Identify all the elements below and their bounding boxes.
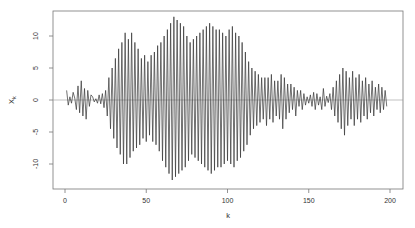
- y-tick-label: -5: [32, 129, 39, 135]
- time-series-chart: 050100150200 -10-50510 k Xk: [0, 0, 415, 228]
- x-axis-title: k: [226, 211, 230, 220]
- y-tick-label: 10: [32, 32, 39, 40]
- series-line: [67, 17, 387, 180]
- y-axis-title: Xk: [7, 96, 17, 104]
- x-tick-label: 50: [142, 197, 150, 204]
- y-tick-label: 0: [32, 98, 39, 102]
- plot-area: [53, 11, 403, 189]
- x-tick-label: 200: [384, 197, 396, 204]
- y-tick-label: -10: [32, 159, 39, 169]
- x-tick-label: 100: [222, 197, 234, 204]
- x-tick-label: 0: [63, 197, 67, 204]
- y-axis: -10-50510: [32, 32, 53, 169]
- x-tick-label: 150: [303, 197, 315, 204]
- x-axis: 050100150200: [63, 189, 396, 204]
- y-tick-label: 5: [32, 66, 39, 70]
